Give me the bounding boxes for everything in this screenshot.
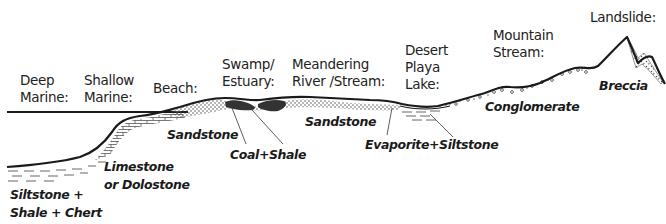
label-coal-shale: Coal+Shale bbox=[230, 146, 306, 164]
label-mountain-stream: Mountain Stream: bbox=[493, 27, 554, 61]
evaporite-leader-line bbox=[430, 114, 453, 137]
label-breccia: Breccia bbox=[599, 77, 648, 95]
label-shallow-marine: Shallow Marine: bbox=[84, 72, 134, 106]
label-beach: Beach: bbox=[153, 80, 198, 97]
label-siltstone-shale-chert: Siltstone + Shale + Chert bbox=[10, 186, 102, 222]
coal-leader-line-2 bbox=[252, 110, 283, 144]
label-sandstone-beach: Sandstone bbox=[167, 126, 238, 144]
label-deep-marine: Deep Marine: bbox=[20, 72, 69, 106]
label-evaporite-siltstone: Evaporite+Siltstone bbox=[365, 136, 498, 154]
label-swamp-estuary: Swamp/ Estuary: bbox=[222, 56, 274, 90]
label-sandstone-river: Sandstone bbox=[305, 113, 376, 131]
label-desert-playa-lake: Desert Playa Lake: bbox=[405, 42, 448, 93]
sandstone-leader-line bbox=[387, 108, 392, 135]
label-landslide: Landslide: bbox=[590, 9, 656, 26]
label-conglomerate: Conglomerate bbox=[485, 98, 579, 116]
label-meandering-river: Meandering River /Stream: bbox=[292, 56, 385, 90]
label-limestone-dolostone: Limestone or Dolostone bbox=[104, 158, 190, 194]
